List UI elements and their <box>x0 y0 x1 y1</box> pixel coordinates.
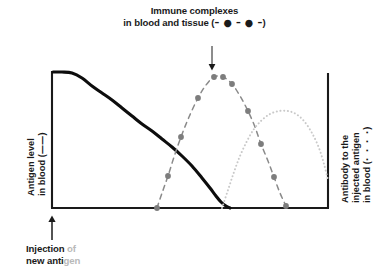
left-axis-label-paren-close: ) <box>37 132 47 135</box>
immune-complexes-caption-line2-text: in blood and tissue ( <box>123 17 214 28</box>
immune-complexes-caption-line1: Immune complexes <box>151 5 238 16</box>
injection-arrow-head <box>48 216 55 223</box>
immune-complexes-caption-line2: in blood and tissue (– ● – ● –) <box>0 17 389 28</box>
series-line-antibody-to-the-injected-antigen-in-blood <box>222 111 328 208</box>
injection-caption-line1-faded: of <box>65 243 76 254</box>
series-marker-immune-complexes-in-blood-and-tissue <box>178 134 184 140</box>
series-marker-immune-complexes-in-blood-and-tissue <box>165 173 171 179</box>
injection-caption-line1-strong: Injection <box>26 243 65 254</box>
series-marker-immune-complexes-in-blood-and-tissue <box>283 203 289 209</box>
series-marker-immune-complexes-in-blood-and-tissue <box>229 81 235 87</box>
series-marker-immune-complexes-in-blood-and-tissue <box>245 108 251 114</box>
series-marker-immune-complexes-in-blood-and-tissue <box>195 95 201 101</box>
series-line-antigen-level-in-blood <box>53 72 230 208</box>
series-marker-immune-complexes-in-blood-and-tissue <box>271 174 277 180</box>
injection-caption-line2-strong: new anti <box>26 255 64 266</box>
antibody-legend-glyph: · · · · <box>361 130 372 162</box>
immune-complexes-arrow-head <box>209 64 216 70</box>
right-axis-label-line3: in blood (· · · ·) <box>362 127 373 203</box>
right-axis-label-line1: Antibody to the <box>340 135 350 203</box>
series-marker-immune-complexes-in-blood-and-tissue <box>211 74 217 80</box>
left-axis-label-line2-text: in blood ( <box>37 154 47 196</box>
left-axis-label-line1: Antigen level <box>26 138 36 196</box>
injection-caption-line2: new antigen <box>26 255 80 266</box>
immune-complexes-caption-paren-close: ) <box>263 17 266 28</box>
immune-complexes-legend-glyph: – ● – ● – <box>214 17 262 28</box>
chart-canvas <box>0 0 389 279</box>
injection-caption: Injection of new antigen <box>26 243 80 267</box>
right-axis-label: Antibody to the injected antigen in bloo… <box>340 127 372 203</box>
series-marker-immune-complexes-in-blood-and-tissue <box>220 74 226 80</box>
immune-complexes-caption: Immune complexes in blood and tissue (– … <box>0 5 389 29</box>
series-marker-immune-complexes-in-blood-and-tissue <box>258 141 264 147</box>
immune-response-figure: Immune complexes in blood and tissue (– … <box>0 0 389 279</box>
series-line-immune-complexes-in-blood-and-tissue <box>157 76 286 208</box>
left-axis-label: Antigen level in blood (——) <box>26 132 48 196</box>
right-axis-label-line3-text: in blood ( <box>362 161 372 203</box>
series-marker-immune-complexes-in-blood-and-tissue <box>154 205 160 211</box>
injection-caption-line1: Injection of <box>26 243 76 254</box>
injection-caption-line2-faded: gen <box>64 255 81 266</box>
antigen-legend-glyph: —— <box>36 136 47 155</box>
left-axis-label-line2: in blood (——) <box>37 132 48 196</box>
right-axis-label-paren-close: ) <box>362 127 372 130</box>
